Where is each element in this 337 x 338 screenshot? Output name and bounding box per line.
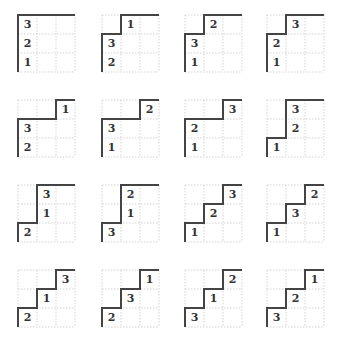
staircase-grid: 123 [267,270,324,327]
staircase-grid: 132 [102,270,159,327]
cell-label: 2 [18,34,37,53]
staircase-grid: 231 [185,15,242,72]
cell-label: 2 [223,270,242,289]
cell-label: 3 [102,34,121,53]
cell-label: 2 [185,119,204,138]
cell-label: 1 [267,223,286,242]
cell-label: 3 [223,185,242,204]
cell-label: 1 [102,138,121,157]
cell-label: 2 [204,15,223,34]
cell-label: 3 [56,270,75,289]
cell-label: 2 [102,308,121,327]
cell-label: 3 [223,100,242,119]
cell-label: 2 [18,138,37,157]
staircase-grid: 213 [102,185,159,242]
cell-label: 3 [102,119,121,138]
cell-label: 2 [140,100,159,119]
staircase-grid: 321 [267,100,324,157]
cell-label: 1 [140,270,159,289]
cell-label: 3 [37,185,56,204]
cell-label: 1 [37,204,56,223]
cell-label: 2 [267,34,286,53]
cell-label: 2 [102,53,121,72]
cell-label: 3 [286,15,305,34]
cell-label: 3 [121,289,140,308]
staircase-grid: 213 [185,270,242,327]
cell-label: 3 [102,223,121,242]
staircase-grid: 132 [102,15,159,72]
cell-label: 1 [56,100,75,119]
staircase-grid: 321 [18,15,75,72]
cell-label: 1 [121,15,140,34]
staircase-grid: 321 [185,100,242,157]
cell-label: 1 [267,53,286,72]
cell-label: 2 [286,119,305,138]
cell-label: 2 [18,308,37,327]
staircase-grid: 231 [102,100,159,157]
staircase-grid: 231 [267,185,324,242]
staircase-grid: 312 [18,270,75,327]
cell-label: 1 [18,53,37,72]
cell-label: 3 [18,119,37,138]
cell-label: 1 [185,223,204,242]
staircase-grid: 321 [185,185,242,242]
cell-label: 2 [18,223,37,242]
cell-label: 3 [286,204,305,223]
staircase-grid: 132 [18,100,75,157]
cell-label: 1 [185,53,204,72]
cell-label: 1 [185,138,204,157]
staircase-grid: 312 [18,185,75,242]
cell-label: 3 [267,308,286,327]
cell-label: 1 [37,289,56,308]
cell-label: 2 [204,204,223,223]
cell-label: 3 [185,308,204,327]
cell-label: 1 [204,289,223,308]
cell-label: 3 [18,15,37,34]
cell-label: 2 [286,289,305,308]
cell-label: 3 [185,34,204,53]
cell-label: 1 [121,204,140,223]
cell-label: 3 [286,100,305,119]
cell-label: 2 [305,185,324,204]
staircase-grid: 321 [267,15,324,72]
cell-label: 1 [305,270,324,289]
cell-label: 1 [267,138,286,157]
cell-label: 2 [121,185,140,204]
